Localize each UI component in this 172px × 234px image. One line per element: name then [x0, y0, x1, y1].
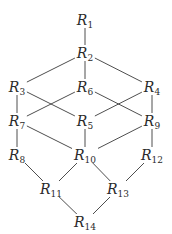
node-subscript: 12: [152, 155, 163, 165]
node-subscript: 14: [85, 222, 96, 232]
node-subscript: 10: [85, 155, 96, 165]
node-r4: R4: [142, 79, 162, 95]
node-subscript: 1: [87, 20, 93, 30]
node-label: R: [144, 79, 155, 95]
node-subscript: 13: [118, 189, 129, 199]
node-subscript: 11: [51, 189, 62, 199]
node-subscript: 7: [19, 121, 25, 131]
node-label: R: [9, 79, 20, 95]
node-subscript: 4: [154, 87, 160, 97]
node-label: R: [40, 181, 51, 197]
node-r5: R5: [75, 113, 95, 129]
node-r11: R11: [38, 181, 64, 197]
node-label: R: [77, 45, 88, 61]
node-label: R: [107, 181, 118, 197]
node-label: R: [77, 113, 88, 129]
node-label: R: [77, 79, 88, 95]
node-r14: R14: [72, 214, 98, 230]
node-subscript: 6: [87, 87, 93, 97]
node-r9: R9: [142, 113, 162, 129]
node-label: R: [144, 113, 155, 129]
node-label: R: [74, 147, 85, 163]
node-label: R: [77, 12, 88, 28]
node-r2: R2: [75, 45, 95, 61]
node-label: R: [9, 147, 20, 163]
node-label: R: [9, 113, 20, 129]
node-r7: R7: [7, 113, 27, 129]
node-r8: R8: [7, 147, 27, 163]
node-r1: R1: [75, 12, 95, 28]
node-subscript: 9: [154, 121, 160, 131]
node-subscript: 3: [19, 87, 25, 97]
node-r12: R12: [139, 147, 165, 163]
node-r6: R6: [75, 79, 95, 95]
node-subscript: 5: [87, 121, 93, 131]
node-subscript: 2: [87, 53, 93, 63]
node-r3: R3: [7, 79, 27, 95]
node-label: R: [74, 214, 85, 230]
lattice-diagram: R1R2R3R6R4R7R5R9R8R10R12R11R13R14: [0, 0, 172, 234]
node-subscript: 8: [19, 155, 25, 165]
node-r13: R13: [105, 181, 131, 197]
node-r10: R10: [72, 147, 98, 163]
node-label: R: [141, 147, 152, 163]
